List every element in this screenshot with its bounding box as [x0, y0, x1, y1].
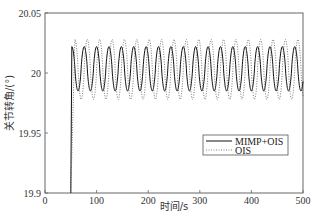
series-ois [71, 39, 303, 193]
y-tick-label: 20 [31, 68, 41, 79]
x-tick-label: 0 [43, 195, 48, 206]
x-tick-label: 300 [192, 195, 207, 206]
x-tick-label: 400 [244, 195, 259, 206]
x-axis-title: 时间/s [160, 200, 189, 212]
axis-ticks: 010020030040050019.919.952020.05 [19, 8, 311, 207]
x-tick-label: 100 [89, 195, 104, 206]
y-tick-label: 19.9 [24, 188, 42, 199]
y-tick-label: 20.05 [19, 8, 42, 19]
y-axis-title: 关节转角/(°) [3, 75, 15, 131]
series-mimp-ois [71, 47, 303, 193]
x-tick-label: 200 [141, 195, 156, 206]
x-tick-label: 500 [296, 195, 311, 206]
legend-label-ois: OIS [235, 145, 251, 156]
legend: MIMP+OIS OIS [203, 135, 288, 156]
series-layer [71, 39, 303, 193]
y-tick-label: 19.95 [19, 128, 42, 139]
line-chart: 010020030040050019.919.952020.05 时间/s 关节… [0, 0, 320, 224]
